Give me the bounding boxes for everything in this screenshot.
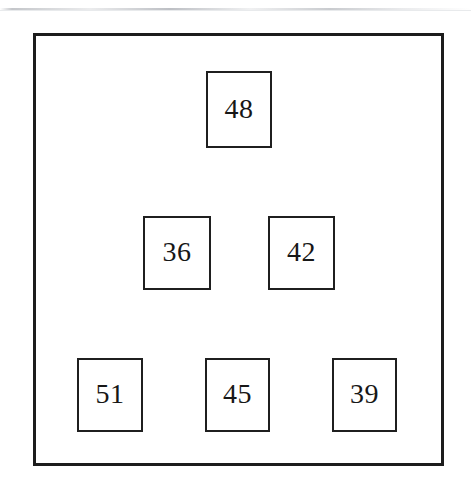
number-box: 36 [143,216,211,290]
number-box-label: 36 [163,238,192,266]
number-box: 39 [332,358,397,432]
number-box: 48 [206,71,272,148]
diagram-page: 483642514539 [0,0,471,493]
scan-artifact-line-secondary [0,10,471,11]
number-box-label: 39 [350,380,379,408]
number-box: 51 [77,358,143,432]
number-box: 42 [268,216,335,290]
number-box: 45 [205,358,270,432]
number-box-label: 48 [225,95,254,123]
number-box-label: 42 [287,238,316,266]
number-box-label: 51 [96,380,125,408]
number-box-label: 45 [223,380,252,408]
